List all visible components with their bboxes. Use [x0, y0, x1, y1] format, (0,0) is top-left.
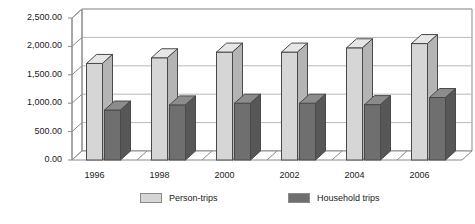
side-rib-500	[72, 123, 82, 132]
legend-swatch-icon	[288, 193, 310, 203]
legend-swatch-icon	[140, 193, 162, 203]
bar-1998-household-trips	[170, 96, 196, 160]
side-rib-2000	[72, 37, 82, 46]
legend-label: Person-trips	[169, 193, 218, 203]
plot-side-wall	[72, 9, 82, 160]
legend-item-household-trips[interactable]: Household trips	[288, 193, 380, 203]
side-rib-1500	[72, 66, 82, 75]
x-axis-tick-label: 2006	[387, 170, 452, 180]
x-axis-tick-label: 2004	[322, 170, 387, 180]
x-axis-tick-label: 1998	[127, 170, 192, 180]
x-axis-tick-label: 2002	[257, 170, 322, 180]
bar-chart: 0.00500.001,000.001,500.002,000.002,500.…	[0, 0, 475, 224]
x-axis-tick-label: 1996	[62, 170, 127, 180]
chart-legend: Person-tripsHousehold trips	[0, 188, 475, 212]
bar-2006-household-trips	[430, 89, 456, 160]
legend-label: Household trips	[317, 193, 380, 203]
side-rib-1000	[72, 94, 82, 103]
bar-2004-household-trips	[365, 96, 391, 160]
legend-item-person-trips[interactable]: Person-trips	[140, 193, 218, 203]
bar-2000-household-trips	[235, 94, 261, 160]
bar-1996-household-trips	[105, 101, 131, 160]
x-axis-tick-label: 2000	[192, 170, 257, 180]
bar-2002-household-trips	[300, 94, 326, 160]
x-axis-labels: 199619982000200220042006	[62, 168, 472, 184]
